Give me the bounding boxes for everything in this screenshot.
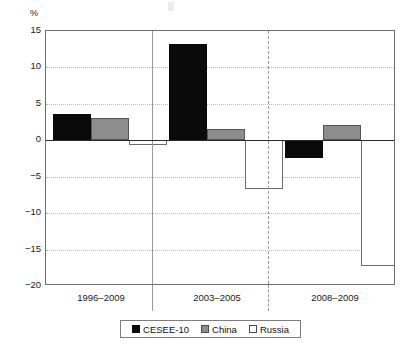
y-tick-5: 5 [1,98,41,108]
y-axis-unit-label: % [30,8,38,18]
bar-china-1996-2009 [91,118,129,140]
bar-cesee10-2003-2005 [169,44,207,140]
bar-china-2008-2009 [323,125,361,140]
legend-item-cesee10: CESEE-10 [132,324,189,335]
group-separator-2 [268,31,269,284]
bar-russia-2008-2009 [361,140,395,266]
bar-china-2003-2005 [207,129,245,140]
gridline-10 [46,67,394,68]
y-tick-0: 0 [1,134,41,144]
bar-russia-2003-2005 [245,140,283,189]
y-tick-neg15: −15 [1,244,41,254]
x-tick-1996-2009: 1996–2009 [59,292,143,303]
legend-swatch-cesee10-icon [132,325,140,333]
legend-label-cesee10: CESEE-10 [143,324,189,335]
scan-artifact [168,2,174,11]
gridline-neg15 [46,250,394,251]
plot-area [45,30,395,285]
y-tick-10: 10 [1,61,41,71]
chart-legend: CESEE-10 China Russia [120,320,301,338]
y-tick-15: 15 [1,25,41,35]
y-axis-tick-labels: 15 10 5 0 −5 −10 −15 −20 [0,30,41,285]
group-separator-2-extension [268,285,269,311]
y-tick-neg5: −5 [1,171,41,181]
legend-swatch-russia-icon [249,325,257,333]
y-tick-neg20: −20 [1,280,41,290]
legend-label-russia: Russia [260,324,289,335]
legend-label-china: China [212,324,237,335]
gridline-5 [46,104,394,105]
group-separator-1 [152,31,153,284]
legend-item-china: China [201,324,237,335]
legend-item-russia: Russia [249,324,289,335]
bar-chart: % 15 10 5 0 −5 −10 −15 −20 [0,0,409,352]
zero-baseline [46,140,394,141]
gridline-neg10 [46,213,394,214]
x-tick-2003-2005: 2003–2005 [175,292,259,303]
x-tick-2008-2009: 2008–2009 [293,292,377,303]
y-tick-neg10: −10 [1,207,41,217]
legend-swatch-china-icon [201,325,209,333]
bar-cesee10-2008-2009 [285,140,323,158]
x-axis-tick-labels: 1996–2009 2003–2005 2008–2009 [45,288,395,310]
group-separator-1-extension [152,285,153,311]
gridline-neg5 [46,177,394,178]
bar-cesee10-1996-2009 [53,114,91,140]
